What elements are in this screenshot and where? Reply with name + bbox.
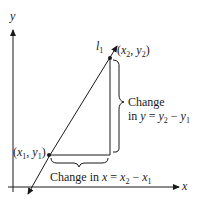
cx-prefix: Change in [50, 170, 102, 184]
change-x-label: Change in x = x2 − x1 [50, 171, 152, 183]
cx-minus: − [129, 170, 142, 184]
cy-prefix: in [128, 109, 140, 123]
change-x-brace [51, 158, 108, 167]
cx-eq: = [107, 170, 120, 184]
cx-b-sub: 1 [148, 177, 152, 186]
line-label: l1 [96, 40, 103, 52]
point-p1 [47, 153, 51, 157]
point-p1-label: (x1, y1) [13, 146, 46, 158]
p1-close: ) [42, 145, 46, 159]
line-l1 [50, 46, 117, 155]
change-y-brace [113, 60, 124, 152]
x-axis-label: x [182, 180, 187, 192]
cy-eq: = [146, 109, 159, 123]
cy-b-sub: 1 [186, 116, 190, 125]
p2-close: ) [146, 43, 150, 57]
cy-minus: − [168, 109, 181, 123]
line-label-sub: 1 [99, 46, 103, 55]
change-y-line1: Change [128, 96, 165, 108]
y-axis-label: y [10, 10, 15, 22]
change-y-line2: in y = y2 − y1 [128, 110, 190, 122]
slope-diagram: y x l1 (x2, y2) (x1, y1) Change in y = y… [0, 0, 201, 210]
point-p2-label: (x2, y2) [117, 44, 150, 56]
point-p2 [108, 56, 112, 60]
